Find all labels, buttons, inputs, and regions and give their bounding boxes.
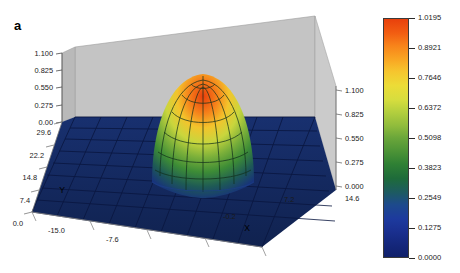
colorbar-tick-label: 0.8921	[418, 44, 441, 52]
z-axis-left: 1.100 0.825 0.550 0.275 0.00	[35, 49, 63, 127]
surface-plot-3d: 1.100 0.825 0.550 0.275 0.00 29.6 22.2 1…	[0, 0, 380, 273]
x-tick-0: -15.0	[48, 226, 65, 235]
colorbar-tick-line	[409, 78, 415, 79]
colorbar-tick-line	[409, 198, 415, 199]
colorbar-tick-line	[409, 18, 415, 19]
z-axis-right: 1.100 0.825 0.550 0.275 0.000 14.6	[336, 86, 364, 203]
colorbar-tick-label: 0.0000	[418, 254, 441, 262]
colorbar-tick-label: 0.7646	[418, 74, 441, 82]
colorbar-tick-label: 0.5098	[418, 134, 441, 142]
x-tick-3: 7.2	[284, 195, 294, 204]
z-tick-right-0: 0.000	[345, 182, 364, 191]
colorbar-tick-line	[409, 48, 415, 49]
x-tick-1: -7.6	[106, 235, 119, 244]
x-tick-4: 14.6	[345, 194, 359, 203]
y-axis-title: Y	[59, 185, 65, 195]
colorbar-tick-label: 0.2549	[418, 194, 441, 202]
figure-container: a	[0, 0, 460, 273]
y-tick-3: 22.2	[30, 151, 44, 160]
colorbar-tick-label: 0.6372	[418, 104, 441, 112]
colorbar-tick-line	[409, 138, 415, 139]
colorbar-tick-label: 1.0195	[418, 14, 441, 22]
z-tick-right-1: 0.275	[345, 158, 364, 167]
x-tick-2: -0.2	[223, 212, 236, 221]
colorbar-tick-line	[409, 258, 415, 259]
z-tick-right-4: 1.100	[345, 86, 364, 95]
colorbar: 0.0000 0.1275 0.2549 0.3823 0.5098 0.637…	[383, 18, 409, 258]
z-tick-left-0: 0.00	[39, 118, 53, 127]
z-tick-left-1: 0.275	[35, 101, 54, 110]
plot-side-wall	[62, 47, 75, 122]
x-axis-title: X	[244, 223, 250, 233]
z-tick-right-3: 0.825	[345, 110, 364, 119]
y-tick-0: 0.0	[13, 219, 23, 228]
z-tick-left-3: 0.825	[35, 66, 54, 75]
y-tick-2: 14.8	[23, 173, 37, 182]
colorbar-tick-line	[409, 228, 415, 229]
colorbar-tick-label: 0.1275	[418, 224, 441, 232]
z-tick-left-2: 0.550	[35, 83, 54, 92]
colorbar-gradient	[383, 18, 409, 258]
colorbar-tick-line	[409, 108, 415, 109]
y-tick-4: 29.6	[37, 128, 51, 137]
colorbar-tick-label: 0.3823	[418, 164, 441, 172]
z-tick-right-2: 0.550	[345, 134, 364, 143]
colorbar-tick-line	[409, 168, 415, 169]
y-tick-1: 7.4	[20, 196, 30, 205]
z-tick-left-4: 1.100	[35, 49, 54, 58]
